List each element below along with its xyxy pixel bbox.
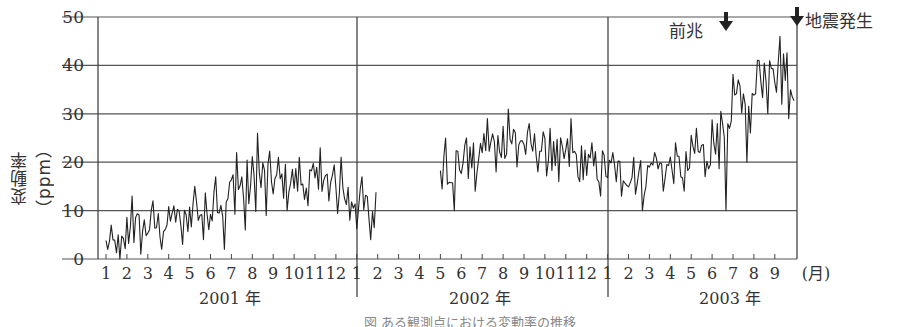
year-label: 2003 年 [699,289,761,308]
x-tick-label: 4 [665,264,675,283]
x-tick-label: 12 [577,264,597,283]
data-series-line [440,36,794,210]
earthquake-annotation-label: 地震発生 [805,7,873,32]
x-tick-label: 8 [247,264,257,283]
x-tick-label: 3 [644,264,654,283]
chart: 0102030405012345678910111212345678910111… [0,0,897,327]
x-tick-label: 7 [477,264,487,283]
y-tick-label: 40 [62,55,84,75]
x-tick-label: 4 [414,264,424,283]
x-tick-label: 6 [456,264,466,283]
figure-caption: 図 ある観測点における変動率の推移 [150,312,790,327]
y-tick-label: 0 [73,249,84,269]
x-tick-label: 11 [556,264,576,283]
x-tick-label: 1 [603,264,613,283]
y-axis-label: 変動率（ppm） [6,118,32,238]
x-tick-label: 1 [101,264,111,283]
x-tick-label: 2 [373,264,383,283]
x-tick-label: 2 [122,264,132,283]
x-tick-label: 10 [284,264,304,283]
y-tick-label: 30 [62,104,84,124]
x-tick-label: 6 [707,264,717,283]
x-tick-label: 12 [326,264,346,283]
year-label: 2001 年 [199,289,261,308]
data-series-line [106,133,376,259]
x-tick-label: 3 [143,264,153,283]
x-tick-label: 3 [394,264,404,283]
x-tick-label: 8 [749,264,759,283]
y-tick-label: 20 [62,152,84,172]
earthquake-arrow-icon-shaft [795,7,799,17]
x-tick-label: 6 [205,264,215,283]
x-tick-label: 2 [623,264,633,283]
precursor-annotation-label: 前兆 [669,17,703,42]
x-tick-label: 5 [435,264,445,283]
y-tick-label: 50 [62,7,84,27]
x-tick-label: 7 [226,264,236,283]
x-tick-label: 10 [535,264,555,283]
x-tick-label: 9 [268,264,278,283]
x-tick-label: 9 [770,264,780,283]
x-tick-label: 5 [185,264,195,283]
line-chart-plot: 0102030405012345678910111212345678910111… [0,0,897,327]
x-tick-label: 8 [498,264,508,283]
precursor-arrow-icon-shaft [724,12,728,22]
x-tick-label: 9 [519,264,529,283]
x-tick-label: 1 [352,264,362,283]
x-tick-label: 7 [728,264,738,283]
precursor-arrow-icon [719,21,733,31]
x-unit-label: (月) [802,264,830,283]
year-label: 2002 年 [449,289,511,308]
y-tick-label: 10 [62,201,84,221]
earthquake-arrow-icon [790,16,804,26]
x-tick-label: 5 [686,264,696,283]
x-tick-label: 11 [305,264,325,283]
x-tick-label: 4 [164,264,174,283]
